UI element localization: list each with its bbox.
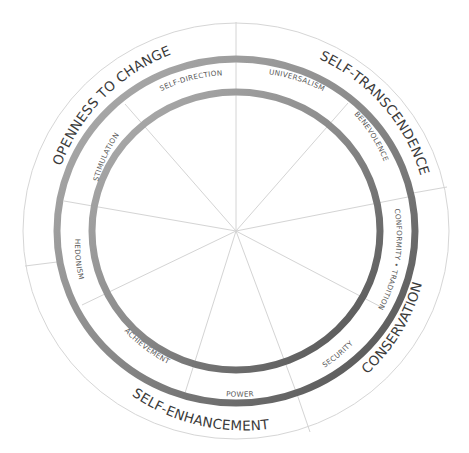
- value-label-hedonism: HEDONISM: [73, 239, 86, 281]
- category-label-self-transcendence: SELF-TRANSCENDENCE: [318, 47, 434, 177]
- value-label-achievement: ACHIEVEMENT: [123, 326, 172, 366]
- values-wheel-diagram: OPENNESS TO CHANGE SELF-TRANSCENDENCE CO…: [0, 0, 469, 453]
- value-label-power: POWER: [226, 389, 254, 399]
